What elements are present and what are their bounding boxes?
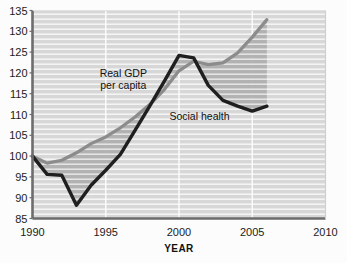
x-tick-label: 2010 (313, 226, 337, 238)
y-tick-label: 100 (9, 150, 27, 162)
x-tick-label: 2000 (167, 226, 191, 238)
x-axis-tick-labels: 19901995200020052010 (20, 226, 337, 238)
y-tick-label: 95 (15, 171, 27, 183)
annotation-social-health: Social health (169, 110, 229, 122)
x-axis-title: YEAR (164, 243, 194, 254)
x-tick-label: 1995 (94, 226, 118, 238)
y-tick-label: 105 (9, 129, 27, 141)
y-tick-label: 120 (9, 67, 27, 79)
y-tick-label: 90 (15, 192, 27, 204)
x-tick-label: 1990 (20, 226, 44, 238)
annotation-real-gdp-line1: Real GDP (100, 67, 147, 79)
line-chart: 859095100105110115120125130135 199019952… (0, 0, 347, 263)
x-tick-label: 2005 (240, 226, 264, 238)
y-tick-label: 110 (10, 109, 28, 121)
chart-figure: 859095100105110115120125130135 199019952… (0, 0, 347, 263)
annotation-real-gdp-line2: per capita (100, 79, 146, 91)
y-tick-label: 85 (15, 213, 27, 225)
y-axis-tick-labels: 859095100105110115120125130135 (9, 5, 32, 225)
y-tick-label: 130 (9, 25, 27, 37)
y-tick-label: 135 (9, 5, 27, 17)
y-tick-label: 115 (10, 88, 28, 100)
y-tick-label: 125 (9, 46, 27, 58)
